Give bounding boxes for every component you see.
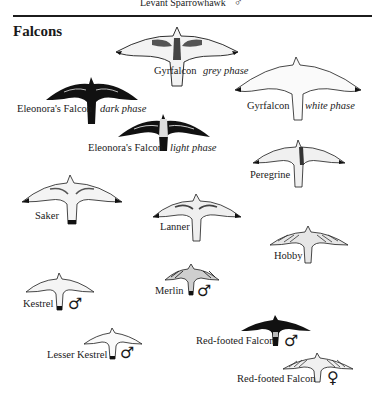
- bird-label: Eleonora's Falcon: [88, 143, 163, 154]
- bird-label: Red-footed Falcon: [196, 336, 274, 347]
- bird-label: Eleonora's Falcon: [17, 104, 92, 115]
- male-symbol-icon: ♂: [197, 283, 211, 299]
- peregrine-silhouette-icon: [251, 139, 347, 189]
- gyrfalcon-white-silhouette-icon: [233, 56, 363, 122]
- male-symbol-icon: ♂: [234, 0, 243, 9]
- male-symbol-icon: ♂: [284, 333, 298, 349]
- phase-label: white phase: [305, 101, 355, 112]
- bird-label: Lanner: [160, 222, 190, 233]
- bird-label: Peregrine: [250, 170, 290, 181]
- bird-label: Gyrfalcon: [154, 66, 197, 77]
- bird-label: Kestrel: [23, 299, 53, 310]
- bird-label: Hobby: [274, 251, 303, 262]
- male-symbol-icon: ♂: [68, 296, 82, 312]
- lanner-silhouette-icon: [151, 193, 243, 243]
- female-symbol-icon: ♀: [327, 370, 339, 386]
- top-caption: Levant Sparrowhawk♂: [140, 0, 243, 10]
- top-caption-text: Levant Sparrowhawk: [140, 0, 226, 8]
- bird-label: Gyrfalcon: [247, 101, 290, 112]
- bird-label: Saker: [35, 211, 59, 222]
- bird-label: Merlin: [155, 286, 184, 297]
- section-title: Falcons: [13, 23, 62, 40]
- bird-label: Lesser Kestrel: [47, 350, 107, 361]
- bird-label: Red-footed Falcon: [237, 374, 315, 385]
- section-divider: [13, 15, 372, 17]
- phase-label: light phase: [170, 143, 216, 154]
- male-symbol-icon: ♂: [120, 345, 134, 361]
